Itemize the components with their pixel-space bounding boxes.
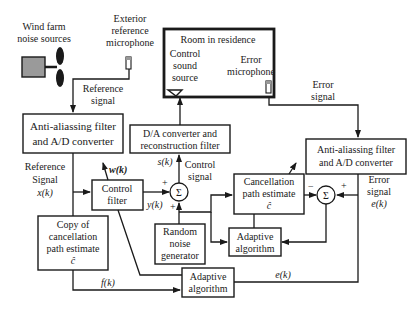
adaptive-bottom-2: algorithm [189,283,228,294]
error-microphone-icon [266,81,271,93]
cancel-path-1: Cancellation [244,176,295,187]
ref-signal-xk-1: Reference [25,161,66,172]
sk-label: s(k) [158,156,174,168]
da-label-2: reconstruction filter [140,140,220,151]
aa-right-label-2: and A/D converter [319,157,394,168]
ref-signal-xk-3: x(k) [36,187,53,199]
ek-bottom-label: e(k) [275,269,291,281]
sigma-2: Σ [323,190,329,201]
control-source-label-2: sound [173,60,197,71]
control-signal-1: Control [185,159,216,170]
copy-cancel-2: cancellation [49,231,97,242]
adaptive-bottom-1: Adaptive [190,271,227,282]
reference-signal-label-2: signal [91,95,115,106]
exterior-mic-label-1: Exterior [114,13,147,24]
adaptive-right-2: algorithm [236,243,275,254]
copy-cancel-4: ĉ [71,255,76,266]
error-ek-2: signal [367,186,391,197]
control-filter-label-2: filter [107,195,127,206]
random-noise-2: noise [169,238,191,249]
reference-signal-label-1: Reference [83,83,124,94]
cancel-path-2: path estimate [242,188,296,199]
plus-1b: + [170,201,176,212]
yk-label: y(k) [146,199,163,211]
error-mic-label-2: microphone [227,66,275,77]
room-label: Room in residence [181,34,257,45]
control-source-label-1: Control [170,48,201,59]
sigma-1: Σ [176,187,182,198]
plus-2: + [341,180,347,191]
random-noise-1: Random [163,226,197,237]
fk-label: f(k) [101,277,116,289]
aa-left-label-1: Anti-aliassing filter [30,120,116,132]
copy-cancel-3: path estimate [46,243,100,254]
minus-2: − [308,181,314,192]
control-filter-label-1: Control [102,183,133,194]
adaptive-right-1: Adaptive [237,231,274,242]
error-signal-top-1: Error [312,79,334,90]
error-ek-1: Error [368,174,390,185]
wind-farm-label-1: Wind farm [22,21,65,32]
error-ek-3: e(k) [371,198,387,210]
error-signal-top-2: signal [311,91,335,102]
exterior-mic-label-3: microphone [106,37,154,48]
aa-right-label-1: Anti-aliassing filter [317,144,396,155]
da-label-1: D/A converter and [143,128,217,139]
wind-turbine-icon [22,47,64,87]
error-mic-label-1: Error [240,54,262,65]
plus-1a: + [162,177,168,188]
control-source-label-3: source [172,72,199,83]
ref-signal-xk-2: Signal [32,174,58,185]
random-noise-3: generator [161,250,199,261]
microphone-icon [126,57,131,69]
cancel-path-3: ĉ [267,200,272,211]
wind-farm-label-2: noise sources [17,33,71,44]
copy-cancel-1: Copy of [57,219,90,230]
control-signal-2: signal [188,171,212,182]
aa-left-label-2: and A/D converter [32,135,114,147]
anc-block-diagram: Wind farm noise sources Exterior referen… [0,0,419,310]
exterior-mic-label-2: reference [111,25,149,36]
wk-label: w(k) [109,164,127,176]
